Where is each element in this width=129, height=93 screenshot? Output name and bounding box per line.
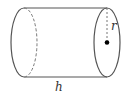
height-label: h [55, 80, 63, 93]
center-dot [105, 40, 110, 45]
left-base-front-arc [11, 8, 24, 77]
cylinder-diagram: r h [0, 0, 129, 93]
left-base-hidden-arc [24, 8, 37, 77]
